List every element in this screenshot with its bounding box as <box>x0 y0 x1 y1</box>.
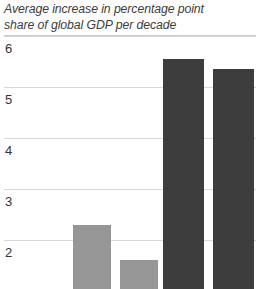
chart-container: Average increase in percentage point sha… <box>0 0 259 289</box>
ytick-label-3: 3 <box>5 195 12 209</box>
bar-1[interactable] <box>73 225 111 289</box>
plot-area: 6 5 4 3 2 <box>0 0 259 289</box>
ytick-label-2: 2 <box>5 246 12 260</box>
bar-2[interactable] <box>120 260 158 289</box>
bar-4[interactable] <box>213 69 254 289</box>
gridline-6 <box>4 36 256 37</box>
ytick-label-6: 6 <box>5 42 12 56</box>
ytick-label-5: 5 <box>5 93 12 107</box>
bar-3[interactable] <box>163 59 204 289</box>
ytick-label-4: 4 <box>5 144 12 158</box>
